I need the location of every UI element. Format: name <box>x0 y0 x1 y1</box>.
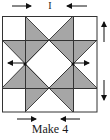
row-label: I <box>45 0 55 12</box>
caption: Make 4 <box>0 122 100 136</box>
block-background <box>2 16 97 112</box>
sawtooth-star-quilt-block-diagram <box>0 0 110 140</box>
